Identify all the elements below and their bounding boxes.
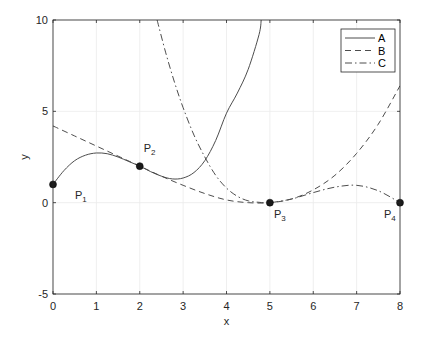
legend-label-b: B xyxy=(378,45,385,57)
y-tick-label: 10 xyxy=(36,14,48,26)
point-marker xyxy=(266,199,273,206)
point-label: P2 xyxy=(144,142,156,157)
point-label: P1 xyxy=(75,189,87,204)
point-label: P4 xyxy=(384,208,396,223)
point-label: P3 xyxy=(274,208,286,223)
legend: ABC xyxy=(341,29,395,72)
x-tick-label: 2 xyxy=(137,300,143,312)
x-tick-label: 5 xyxy=(267,300,273,312)
x-tick-label: 0 xyxy=(50,300,56,312)
y-tick-label: -5 xyxy=(38,288,48,300)
legend-label-c: C xyxy=(378,57,386,69)
point-marker xyxy=(136,163,143,170)
x-tick-label: 4 xyxy=(223,300,229,312)
y-tick-label: 5 xyxy=(42,105,48,117)
x-axis-label: x xyxy=(224,315,230,327)
y-axis-label: y xyxy=(18,154,30,160)
line-chart: P1P2P3P4 012345678-50510 x y ABC xyxy=(0,0,426,342)
x-tick-label: 1 xyxy=(93,300,99,312)
y-tick-label: 0 xyxy=(42,197,48,209)
legend-label-a: A xyxy=(378,32,386,44)
x-tick-label: 6 xyxy=(310,300,316,312)
x-tick-label: 8 xyxy=(397,300,403,312)
x-tick-label: 7 xyxy=(354,300,360,312)
x-tick-label: 3 xyxy=(180,300,186,312)
curve-a xyxy=(53,20,261,184)
